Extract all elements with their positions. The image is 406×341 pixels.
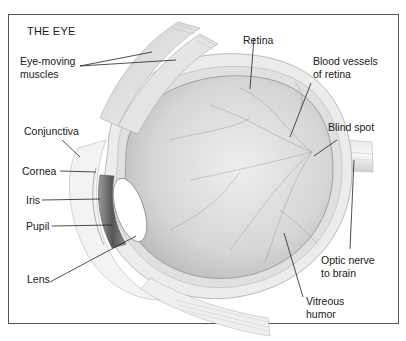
label-pupil: Pupil	[26, 220, 49, 233]
label-lens: Lens	[27, 273, 50, 286]
label-vitreous-humor: Vitreous humor	[306, 295, 344, 320]
label-conjunctiva: Conjunctiva	[24, 125, 79, 138]
label-optic-nerve: Optic nerve to brain	[321, 254, 375, 279]
label-blood-vessels-of-retina: Blood vessels of retina	[313, 55, 378, 80]
label-blind-spot: Blind spot	[328, 121, 374, 134]
diagram-title: THE EYE	[27, 25, 75, 37]
eye-cross-section-illustration	[0, 0, 406, 341]
label-retina: Retina	[243, 34, 273, 47]
label-cornea: Cornea	[22, 165, 56, 178]
label-eye-moving-muscles: Eye-moving muscles	[20, 55, 75, 80]
label-iris: Iris	[26, 194, 40, 207]
